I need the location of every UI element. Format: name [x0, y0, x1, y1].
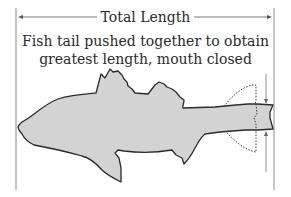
total-length-label: Total Length	[0, 8, 291, 26]
caption-line-2: greatest length, mouth closed	[0, 50, 291, 68]
caption-line-1: Fish tail pushed together to obtain	[0, 32, 291, 50]
title-text: Total Length	[97, 9, 195, 25]
fish-measurement-diagram	[0, 0, 291, 197]
arrow-down-icon	[264, 99, 268, 104]
arrow-up-icon	[264, 131, 268, 136]
fish-silhouette	[18, 69, 273, 182]
